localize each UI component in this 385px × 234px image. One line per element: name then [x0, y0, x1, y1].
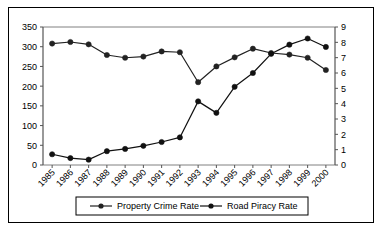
data-point-marker — [250, 70, 255, 75]
x-axis-tick-label: 1994 — [200, 167, 221, 188]
data-point-marker — [104, 149, 109, 154]
right-axis-tick-label: 6 — [341, 68, 346, 78]
right-axis-tick-label: 9 — [341, 22, 346, 32]
x-axis-tick-label: 2000 — [310, 167, 331, 188]
x-axis-tick-label: 1987 — [72, 167, 93, 188]
x-axis: 1985198619871988198919901991199219931994… — [36, 165, 331, 189]
right-axis-tick-label: 5 — [341, 84, 346, 94]
data-point-marker — [305, 36, 310, 41]
x-axis-tick-label: 1986 — [54, 167, 75, 188]
data-point-marker — [232, 84, 237, 89]
left-axis-tick-label: 0 — [32, 160, 37, 170]
data-point-marker — [323, 44, 328, 49]
x-axis-tick-label: 1999 — [291, 167, 312, 188]
left-axis: 050100150200250300350 — [22, 22, 43, 170]
data-point-marker — [196, 99, 201, 104]
dual-axis-line-chart: 050100150200250300350 0123456789 1985198… — [9, 8, 375, 224]
x-axis-tick-label: 1992 — [164, 167, 185, 188]
right-axis-tick-label: 3 — [341, 114, 346, 124]
x-axis-tick-label: 1988 — [91, 167, 112, 188]
data-point-marker — [177, 135, 182, 140]
data-point-marker — [86, 157, 91, 162]
x-axis-tick-label: 1993 — [182, 167, 203, 188]
x-axis-tick-label: 1991 — [145, 167, 166, 188]
data-point-marker — [323, 67, 328, 72]
x-axis-tick-label: 1990 — [127, 167, 148, 188]
legend-label[interactable]: Road Piracy Rate — [227, 201, 298, 211]
left-axis-tick-label: 200 — [22, 82, 37, 92]
data-point-marker — [269, 51, 274, 56]
data-point-marker — [287, 52, 292, 57]
right-axis-tick-label: 7 — [341, 53, 346, 63]
plot-area — [43, 27, 335, 165]
x-axis-tick-label: 1985 — [36, 167, 57, 188]
legend-marker — [98, 203, 103, 208]
right-axis-tick-label: 2 — [341, 130, 346, 140]
right-axis: 0123456789 — [335, 22, 346, 170]
data-point-marker — [68, 156, 73, 161]
right-axis-tick-label: 4 — [341, 99, 346, 109]
data-point-marker — [104, 52, 109, 57]
chart-frame: 050100150200250300350 0123456789 1985198… — [8, 7, 374, 223]
left-axis-tick-label: 300 — [22, 42, 37, 52]
data-point-marker — [123, 55, 128, 60]
data-point-marker — [232, 55, 237, 60]
data-point-marker — [86, 42, 91, 47]
data-point-marker — [214, 64, 219, 69]
data-point-marker — [141, 143, 146, 148]
data-point-marker — [159, 49, 164, 54]
data-point-marker — [196, 80, 201, 85]
data-point-marker — [305, 55, 310, 60]
data-point-marker — [287, 42, 292, 47]
legend-label[interactable]: Property Crime Rate — [117, 201, 199, 211]
left-axis-tick-label: 250 — [22, 62, 37, 72]
left-axis-tick-label: 350 — [22, 22, 37, 32]
x-axis-tick-label: 1996 — [237, 167, 258, 188]
left-axis-tick-label: 100 — [22, 121, 37, 131]
data-point-marker — [250, 46, 255, 51]
data-point-marker — [214, 110, 219, 115]
x-axis-tick-label: 1989 — [109, 167, 130, 188]
data-point-marker — [50, 41, 55, 46]
x-axis-tick-label: 1995 — [218, 167, 239, 188]
chart-legend: Property Crime RateRoad Piracy Rate — [76, 197, 308, 215]
x-axis-tick-label: 1998 — [273, 167, 294, 188]
left-axis-tick-label: 150 — [22, 101, 37, 111]
right-axis-tick-label: 1 — [341, 145, 346, 155]
data-point-marker — [159, 139, 164, 144]
right-axis-tick-label: 8 — [341, 38, 346, 48]
right-axis-tick-label: 0 — [341, 160, 346, 170]
data-point-marker — [177, 50, 182, 55]
data-point-marker — [141, 54, 146, 59]
data-point-marker — [68, 39, 73, 44]
x-axis-tick-label: 1997 — [255, 167, 276, 188]
legend-marker — [208, 203, 213, 208]
left-axis-tick-label: 50 — [27, 141, 37, 151]
data-point-marker — [50, 152, 55, 157]
data-point-marker — [123, 146, 128, 151]
